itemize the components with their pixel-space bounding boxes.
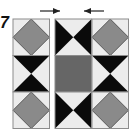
quilt-assembly-diagram: 7 — [0, 0, 133, 137]
block-diamond — [92, 19, 129, 56]
block-hourglass-vertical — [92, 56, 129, 93]
arrow-right-icon — [40, 8, 60, 14]
right-column — [92, 19, 129, 129]
middle-column — [55, 19, 92, 129]
block-diamond — [13, 19, 50, 56]
block-diamond — [13, 92, 50, 129]
block-hourglass-horizontal — [55, 19, 92, 56]
block-hourglass-horizontal — [55, 92, 92, 129]
quilt-diagram-canvas — [0, 0, 133, 137]
arrow-left-icon — [84, 8, 104, 14]
left-column — [13, 19, 50, 129]
block-diamond — [92, 92, 129, 129]
block-hourglass-vertical — [13, 56, 50, 93]
block-center-square — [55, 56, 92, 93]
center-square-shape — [55, 56, 92, 93]
